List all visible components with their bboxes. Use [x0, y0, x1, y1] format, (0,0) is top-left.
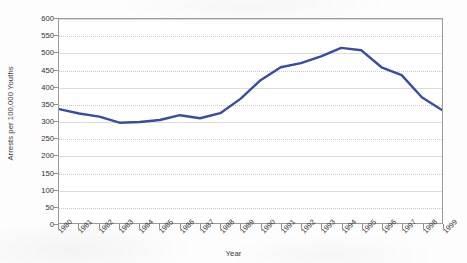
- y-axis-tick-label: 600: [20, 14, 54, 23]
- y-axis-tick-label: 400: [20, 82, 54, 91]
- y-axis-tick-label: 300: [20, 117, 54, 126]
- y-axis-tick-label: 50: [20, 202, 54, 211]
- data-line: [59, 48, 442, 123]
- line-chart: Arrests per 100,000 Youths 0501001502002…: [0, 0, 467, 263]
- x-axis-title: Year: [0, 249, 467, 258]
- y-axis-title-text: Arrests per 100,000 Youths: [6, 66, 15, 160]
- y-axis-tick-label: 200: [20, 151, 54, 160]
- y-axis-tick-label: 350: [20, 99, 54, 108]
- y-axis-title: Arrests per 100,000 Youths: [2, 18, 18, 208]
- y-axis-tick-label: 450: [20, 65, 54, 74]
- series-line-arrest-rate: [59, 19, 442, 223]
- y-axis-tick-label: 250: [20, 134, 54, 143]
- y-axis-tick-label: 150: [20, 168, 54, 177]
- y-axis-tick-label: 500: [20, 48, 54, 57]
- y-axis-tick-label: 0: [20, 220, 54, 229]
- plot-area: [58, 18, 443, 224]
- y-axis-tick-label: 100: [20, 185, 54, 194]
- y-axis-tick-label: 550: [20, 31, 54, 40]
- x-axis-tick-label: 1999: [441, 217, 459, 235]
- y-axis-tick-labels: 050100150200250300350400450500550600: [20, 18, 54, 224]
